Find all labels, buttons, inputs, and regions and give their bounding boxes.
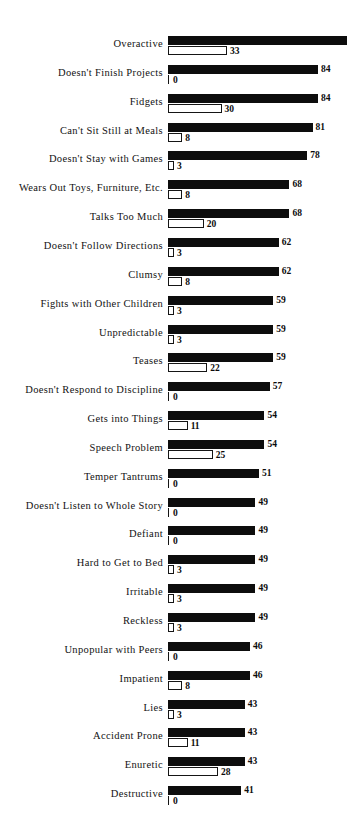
filled-bar-value: 84 <box>321 94 331 103</box>
bar-row: Irritable493 <box>0 584 352 613</box>
outlined-bar <box>168 796 170 805</box>
outlined-bar-value: 3 <box>177 162 182 171</box>
filled-bar-value: 43 <box>248 728 258 737</box>
category-label: Doesn't Follow Directions <box>0 239 163 252</box>
filled-bar <box>168 440 264 449</box>
outlined-bar-value: 3 <box>177 711 182 720</box>
filled-bar <box>168 382 270 391</box>
filled-bar-value: 51 <box>262 469 272 478</box>
outlined-bar-value: 28 <box>221 768 231 777</box>
outlined-bar <box>168 133 182 142</box>
filled-bar-value: 49 <box>258 613 268 622</box>
filled-bar-value: 43 <box>248 757 258 766</box>
bar-row: Fidgets8430 <box>0 94 352 123</box>
bars-wrap: 6820 <box>168 209 352 238</box>
filled-bar <box>168 209 289 218</box>
outlined-bar-value: 3 <box>177 336 182 345</box>
outlined-bar <box>168 479 170 488</box>
filled-bar-value: 68 <box>292 180 302 189</box>
outlined-bar-value: 8 <box>185 191 190 200</box>
outlined-bar <box>168 738 188 747</box>
bar-row: Doesn't Listen to Whole Story490 <box>0 498 352 527</box>
category-label: Destructive <box>0 787 163 800</box>
outlined-bar <box>168 536 170 545</box>
category-label: Doesn't Stay with Games <box>0 152 163 165</box>
outlined-bar-value: 0 <box>173 480 178 489</box>
bar-row: Doesn't Finish Projects840 <box>0 65 352 94</box>
bar-row: Teases5922 <box>0 353 352 382</box>
filled-bar-value: 78 <box>310 151 320 160</box>
filled-bar-value: 59 <box>276 325 286 334</box>
filled-bar-value: 54 <box>267 440 277 449</box>
outlined-bar-value: 11 <box>191 422 200 431</box>
filled-bar <box>168 325 273 334</box>
outlined-bar <box>168 306 174 315</box>
bars-wrap: 593 <box>168 296 352 325</box>
bar-row: Defiant490 <box>0 526 352 555</box>
bars-wrap: 8430 <box>168 94 352 123</box>
bars-wrap: 623 <box>168 238 352 267</box>
outlined-bar-value: 0 <box>173 797 178 806</box>
bars-wrap: 5411 <box>168 411 352 440</box>
outlined-bar <box>168 594 174 603</box>
filled-bar <box>168 526 255 535</box>
outlined-bar <box>168 421 188 430</box>
bars-wrap: 4311 <box>168 728 352 757</box>
category-label: Can't Sit Still at Meals <box>0 124 163 137</box>
bars-wrap: 688 <box>168 180 352 209</box>
category-label: Lies <box>0 701 163 714</box>
outlined-bar <box>168 104 222 113</box>
filled-bar-value: 43 <box>248 700 258 709</box>
bars-wrap: 4328 <box>168 757 352 786</box>
outlined-bar-value: 3 <box>177 624 182 633</box>
bar-row: Hard to Get to Bed493 <box>0 555 352 584</box>
category-label: Accident Prone <box>0 729 163 742</box>
filled-bar-value: 49 <box>258 555 268 564</box>
bar-row: Doesn't Respond to Discipline570 <box>0 382 352 411</box>
filled-bar <box>168 613 255 622</box>
outlined-bar-value: 8 <box>185 134 190 143</box>
bar-row: Impatient468 <box>0 671 352 700</box>
category-label: Clumsy <box>0 268 163 281</box>
filled-bar-value: 59 <box>276 296 286 305</box>
outlined-bar-value: 3 <box>177 566 182 575</box>
bar-row: Overactive33 <box>0 36 352 65</box>
filled-bar-value: 68 <box>292 209 302 218</box>
outlined-bar <box>168 190 182 199</box>
category-label: Talks Too Much <box>0 210 163 223</box>
bars-wrap: 783 <box>168 151 352 180</box>
filled-bar-value: 49 <box>258 526 268 535</box>
bars-wrap: 410 <box>168 786 352 815</box>
filled-bar <box>168 584 255 593</box>
filled-bar <box>168 555 255 564</box>
filled-bar <box>168 728 245 737</box>
bars-wrap: 460 <box>168 642 352 671</box>
filled-bar-value: 46 <box>253 642 263 651</box>
bars-wrap: 5922 <box>168 353 352 382</box>
outlined-bar <box>168 161 174 170</box>
filled-bar-value: 46 <box>253 671 263 680</box>
filled-bar-value: 54 <box>267 411 277 420</box>
outlined-bar-value: 3 <box>177 307 182 316</box>
filled-bar <box>168 498 255 507</box>
outlined-bar-value: 3 <box>177 595 182 604</box>
category-label: Impatient <box>0 672 163 685</box>
bar-row: Clumsy628 <box>0 267 352 296</box>
category-label: Enuretic <box>0 758 163 771</box>
filled-bar-value: 41 <box>244 786 254 795</box>
category-label: Teases <box>0 354 163 367</box>
bar-row: Lies433 <box>0 700 352 729</box>
filled-bar <box>168 642 250 651</box>
outlined-bar-value: 0 <box>173 393 178 402</box>
outlined-bar-value: 0 <box>173 537 178 546</box>
category-label: Doesn't Listen to Whole Story <box>0 499 163 512</box>
outlined-bar-value: 11 <box>191 739 200 748</box>
bars-wrap: 493 <box>168 555 352 584</box>
filled-bar <box>168 123 313 132</box>
bars-wrap: 490 <box>168 526 352 555</box>
filled-bar-value: 59 <box>276 353 286 362</box>
category-label: Irritable <box>0 585 163 598</box>
filled-bar-value: 57 <box>273 382 283 391</box>
bar-row: Wears Out Toys, Furniture, Etc.688 <box>0 180 352 209</box>
outlined-bar-value: 0 <box>173 509 178 518</box>
